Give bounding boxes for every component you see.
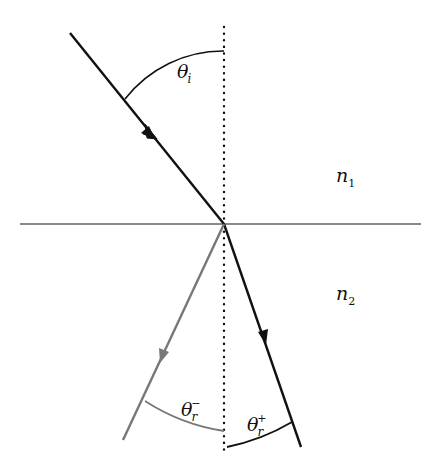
negative-refracted-ray xyxy=(123,224,224,440)
n1-base: n xyxy=(336,164,348,186)
theta-i-label: θi xyxy=(177,62,192,81)
medium-n1-label: n1 xyxy=(336,166,355,185)
theta-r-minus-superscript: − xyxy=(191,397,200,410)
theta-r-plus-subscript: r xyxy=(257,425,263,439)
n1-subscript: 1 xyxy=(348,177,355,190)
n2-subscript: 2 xyxy=(348,295,355,308)
theta-r-minus-subscript: r xyxy=(191,410,197,424)
medium-n2-label: n2 xyxy=(336,284,355,303)
theta-r-plus-label: θr+ xyxy=(247,415,273,434)
angle-arc-theta-i xyxy=(125,51,224,99)
theta-r-minus-label: θr− xyxy=(181,400,207,419)
negative-refracted-arrowhead-icon xyxy=(159,348,169,363)
theta-i-subscript: i xyxy=(187,72,191,86)
refraction-diagram xyxy=(0,0,438,474)
theta-r-plus-superscript: + xyxy=(257,412,266,425)
n2-base: n xyxy=(336,282,348,304)
positive-refracted-arrowhead-icon xyxy=(258,329,268,345)
